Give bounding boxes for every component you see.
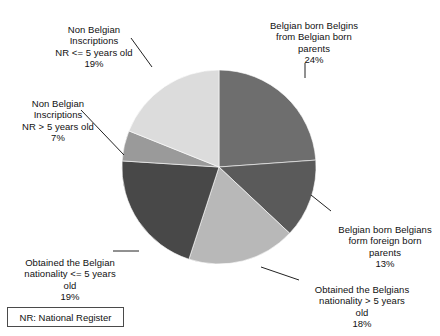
- slice-label-percent: 24%: [248, 54, 380, 66]
- slice-label-percent: 18%: [300, 318, 424, 330]
- slice-label-text: Non Belgian Inscriptions NR <= 5 years o…: [55, 24, 132, 58]
- slice-label-text: Belgian born Belgins from Belgian born p…: [270, 20, 358, 54]
- slice-label-percent: 13%: [332, 258, 438, 270]
- leader-line-obtained-nationality-gt-5-years: [261, 267, 299, 280]
- slice-label-percent: 19%: [36, 58, 152, 70]
- slice-label-percent: 7%: [4, 132, 112, 144]
- pie-slice-belgian-born-belgian-parents[interactable]: [219, 70, 316, 167]
- slice-label-text: Obtained the Belgian nationality <= 5 ye…: [24, 257, 115, 291]
- slice-label-text: Belgian born Belgians form foreign born …: [338, 224, 431, 258]
- legend-note-box: NR: National Register: [7, 307, 124, 327]
- slice-label-obtained-nationality-gt-5-years: Obtained the Belgians nationality > 5 ye…: [300, 272, 424, 336]
- slice-label-percent: 19%: [6, 291, 134, 303]
- slice-label-obtained-nationality-lte-5-years: Obtained the Belgian nationality <= 5 ye…: [6, 245, 134, 314]
- slice-label-non-belgian-nr-lte-5-years: Non Belgian Inscriptions NR <= 5 years o…: [36, 12, 152, 81]
- leader-line-belgian-born-foreign-parents: [311, 195, 331, 211]
- slice-label-belgian-born-belgian-parents: Belgian born Belgins from Belgian born p…: [248, 8, 380, 77]
- slice-label-text: Non Belgian Inscriptions NR > 5 years ol…: [22, 98, 94, 132]
- slice-label-text: Obtained the Belgians nationality > 5 ye…: [315, 284, 410, 318]
- slice-label-belgian-born-foreign-parents: Belgian born Belgians form foreign born …: [332, 212, 438, 281]
- legend-note-text: NR: National Register: [20, 312, 112, 323]
- pie-chart-figure: Belgian born Belgins from Belgian born p…: [0, 0, 440, 336]
- slice-label-non-belgian-nr-gt-5-years: Non Belgian Inscriptions NR > 5 years ol…: [4, 86, 112, 155]
